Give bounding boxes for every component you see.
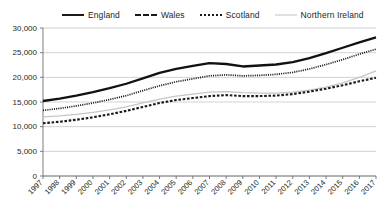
- legend-swatch-england-icon: [62, 12, 84, 18]
- legend-label-northern-ireland: Northern Ireland: [301, 10, 364, 20]
- x-tick-label: 2013: [292, 178, 310, 196]
- x-tick-label: 2017: [359, 178, 377, 196]
- plot-area: 05,00010,00015,00020,00025,00030,000 199…: [0, 22, 381, 217]
- y-tick-label: 20,000: [13, 73, 38, 82]
- x-tick-label: 2016: [342, 178, 360, 196]
- x-tick-label: 2010: [243, 178, 261, 196]
- legend-item-scotland: Scotland: [200, 10, 260, 20]
- x-axis-tick-labels: 1997199819992000200120022003200420052006…: [26, 178, 377, 196]
- y-tick-label: 10,000: [13, 122, 38, 131]
- x-tick-label: 1999: [59, 178, 77, 196]
- x-tick-label: 2003: [126, 178, 144, 196]
- chart-canvas: 05,00010,00015,00020,00025,00030,000 199…: [0, 22, 381, 217]
- data-series: [43, 37, 376, 123]
- series-line-england: [43, 37, 376, 101]
- x-tick-label: 2008: [209, 178, 227, 196]
- x-tick-label: 1997: [26, 178, 44, 196]
- x-tick-label: 2012: [276, 178, 294, 196]
- y-tick-label: 25,000: [13, 48, 38, 57]
- series-line-scotland: [43, 49, 376, 110]
- legend-item-northern-ireland: Northern Ireland: [275, 10, 364, 20]
- y-tick-label: 30,000: [13, 24, 38, 33]
- legend-swatch-northern-ireland-icon: [275, 12, 297, 18]
- x-tick-label: 2001: [93, 178, 111, 196]
- x-axis: [43, 28, 376, 179]
- x-tick-label: 2009: [226, 178, 244, 196]
- x-tick-label: 2000: [76, 178, 94, 196]
- legend-item-england: England: [62, 10, 120, 20]
- y-tick-label: 5,000: [17, 147, 38, 156]
- legend-swatch-wales-icon: [135, 12, 157, 18]
- series-line-northern-ireland: [43, 71, 376, 117]
- x-tick-label: 1998: [43, 178, 61, 196]
- x-tick-label: 2015: [326, 178, 344, 196]
- x-tick-label: 2007: [193, 178, 211, 196]
- legend-label-wales: Wales: [161, 10, 185, 20]
- series-line-wales: [43, 78, 376, 123]
- x-tick-label: 2006: [176, 178, 194, 196]
- y-axis-tick-labels: 05,00010,00015,00020,00025,00030,000: [13, 24, 38, 181]
- y-tick-label: 15,000: [13, 98, 38, 107]
- legend-label-scotland: Scotland: [226, 10, 260, 20]
- x-tick-label: 2004: [143, 178, 161, 196]
- x-tick-label: 2014: [309, 178, 327, 196]
- chart-legend: England Wales Scotland Northern Ireland: [62, 8, 374, 22]
- legend-label-england: England: [88, 10, 120, 20]
- x-tick-label: 2011: [260, 178, 278, 196]
- legend-item-wales: Wales: [135, 10, 185, 20]
- gridlines: [40, 28, 376, 176]
- line-chart: England Wales Scotland Northern Ireland …: [0, 0, 381, 217]
- legend-swatch-scotland-icon: [200, 12, 222, 18]
- x-tick-label: 2002: [109, 178, 127, 196]
- x-tick-label: 2005: [159, 178, 177, 196]
